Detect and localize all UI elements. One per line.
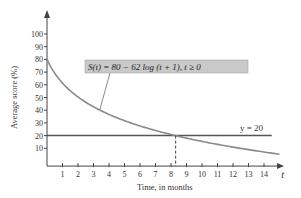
x-tick-label: 3 [92, 170, 96, 179]
x-tick-label: 1 [61, 170, 65, 179]
x-tick-label: 13 [245, 170, 253, 179]
y-equals-20-label: y = 20 [240, 123, 264, 133]
y-tick-label: 60 [35, 81, 43, 90]
x-tick-label: 5 [123, 170, 127, 179]
y-axis-arrow-icon [44, 10, 50, 18]
x-axis-ticks: 1234567891011121314 [61, 163, 269, 179]
y-tick-label: 50 [35, 94, 43, 103]
x-tick-label: 9 [185, 170, 189, 179]
series-score-curve [47, 59, 280, 154]
x-tick-label: 10 [198, 170, 206, 179]
y-tick-label: 10 [35, 144, 43, 153]
annotation-leader-line [100, 73, 110, 110]
y-tick-label: 40 [35, 106, 43, 115]
x-tick-label: 4 [107, 170, 111, 179]
y-tick-label: 80 [35, 55, 43, 64]
y-tick-label: 100 [31, 30, 43, 39]
x-tick-label: 8 [169, 170, 173, 179]
x-axis-variable: t [281, 169, 284, 180]
x-tick-label: 2 [76, 170, 80, 179]
y-axis-title: Average score (%) [9, 66, 19, 129]
y-tick-label: 30 [35, 119, 43, 128]
x-axis-title: Time, in months [137, 182, 193, 192]
y-axis-ticks: 102030405060708090100 [31, 30, 47, 153]
y-tick-label: 20 [35, 132, 43, 141]
x-tick-label: 7 [154, 170, 158, 179]
x-tick-label: 6 [138, 170, 142, 179]
chart: 102030405060708090100 123456789101112131… [0, 0, 301, 198]
x-tick-label: 12 [229, 170, 237, 179]
formula-annotation-text: S(t) = 80 − 62 log (t + 1), t ≥ 0 [88, 62, 201, 72]
y-tick-label: 90 [35, 43, 43, 52]
x-tick-label: 11 [214, 170, 222, 179]
x-tick-label: 14 [260, 170, 268, 179]
y-tick-label: 70 [35, 68, 43, 77]
